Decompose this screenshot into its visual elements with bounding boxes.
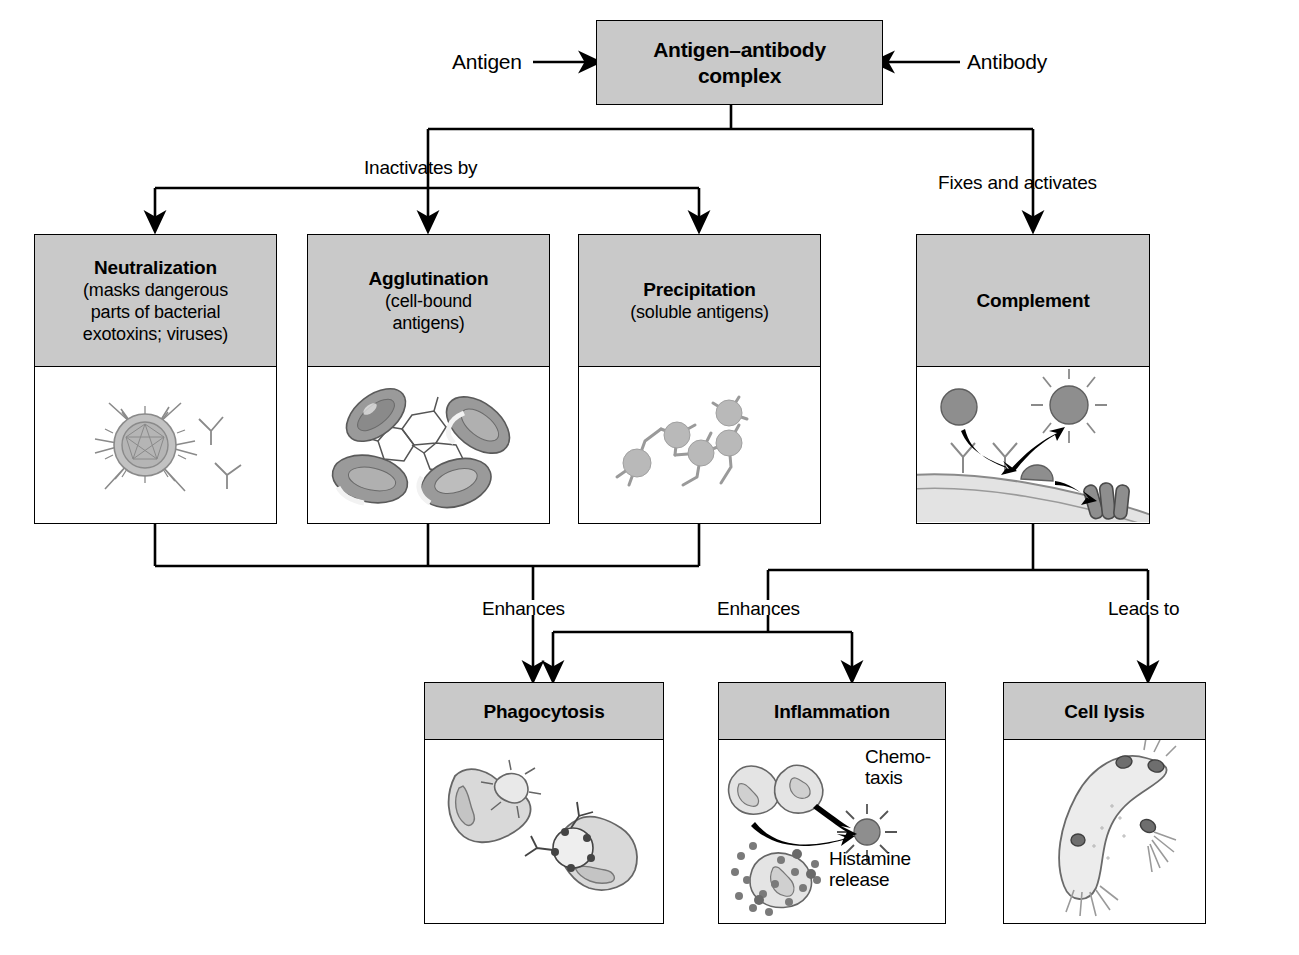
- neutralization-subtitle-line-2: parts of bacterial: [91, 301, 220, 323]
- inflammation-illustration: Chemo- taxis Histamine release: [719, 740, 945, 922]
- phagocytosis-illustration: [425, 740, 663, 922]
- title-line-1: Antigen–antibody: [653, 37, 826, 63]
- phagocytosis-title: Phagocytosis: [483, 700, 604, 723]
- precipitation-illustration: [579, 367, 820, 522]
- neutralization-title: Neutralization: [94, 256, 217, 279]
- cell-lysis-title: Cell lysis: [1064, 700, 1144, 723]
- agglutination-subtitle-line-2: antigens): [392, 312, 464, 334]
- mechanism-box-complement: Complement: [916, 234, 1150, 524]
- chemotaxis-label: Chemo- taxis: [865, 746, 931, 788]
- complement-header: Complement: [917, 235, 1149, 367]
- connector-label-enhances-right: Enhances: [717, 598, 800, 620]
- precipitation-title: Precipitation: [643, 278, 755, 301]
- connector-label-leads-to: Leads to: [1108, 598, 1179, 620]
- precipitation-subtitle-line-1: (soluble antigens): [630, 301, 768, 323]
- agglutination-header: Agglutination (cell-bound antigens): [308, 235, 549, 367]
- antigen-input-label: Antigen: [452, 50, 522, 74]
- chemotaxis-label-line-2: taxis: [865, 767, 931, 788]
- agglutination-subtitle-line-1: (cell-bound: [385, 290, 472, 312]
- neutralization-header: Neutralization (masks dangerous parts of…: [35, 235, 276, 367]
- neutralization-subtitle-line-1: (masks dangerous: [83, 279, 228, 301]
- title-line-2: complex: [653, 63, 826, 89]
- diagram-canvas: Antigen–antibody complex Antigen Antibod…: [0, 0, 1299, 955]
- mechanism-box-precipitation: Precipitation (soluble antigens): [578, 234, 821, 524]
- neutralization-illustration: [35, 367, 276, 522]
- neutralization-subtitle-line-3: exotoxins; viruses): [83, 323, 228, 345]
- histamine-release-label: Histamine release: [829, 848, 911, 890]
- precipitation-header: Precipitation (soluble antigens): [579, 235, 820, 367]
- cell-lysis-illustration: [1004, 740, 1205, 922]
- connector-label-fixes: Fixes and activates: [938, 172, 1097, 194]
- complement-illustration: [917, 367, 1149, 522]
- agglutination-illustration: [308, 367, 549, 522]
- connector-label-enhances-left: Enhances: [482, 598, 565, 620]
- outcome-box-inflammation: Inflammation: [718, 682, 946, 924]
- phagocytosis-header: Phagocytosis: [425, 683, 663, 740]
- connector-label-inactivates: Inactivates by: [364, 157, 477, 179]
- histamine-label-line-1: Histamine: [829, 848, 911, 869]
- complement-title: Complement: [976, 289, 1089, 312]
- mechanism-box-agglutination: Agglutination (cell-bound antigens): [307, 234, 550, 524]
- histamine-label-line-2: release: [829, 869, 911, 890]
- outcome-box-phagocytosis: Phagocytosis: [424, 682, 664, 924]
- inflammation-header: Inflammation: [719, 683, 945, 740]
- antibody-input-label: Antibody: [967, 50, 1047, 74]
- outcome-box-cell-lysis: Cell lysis: [1003, 682, 1206, 924]
- inflammation-title: Inflammation: [774, 700, 890, 723]
- antigen-antibody-complex-box: Antigen–antibody complex: [596, 20, 883, 105]
- mechanism-box-neutralization: Neutralization (masks dangerous parts of…: [34, 234, 277, 524]
- chemotaxis-label-line-1: Chemo-: [865, 746, 931, 767]
- cell-lysis-header: Cell lysis: [1004, 683, 1205, 740]
- agglutination-title: Agglutination: [369, 267, 489, 290]
